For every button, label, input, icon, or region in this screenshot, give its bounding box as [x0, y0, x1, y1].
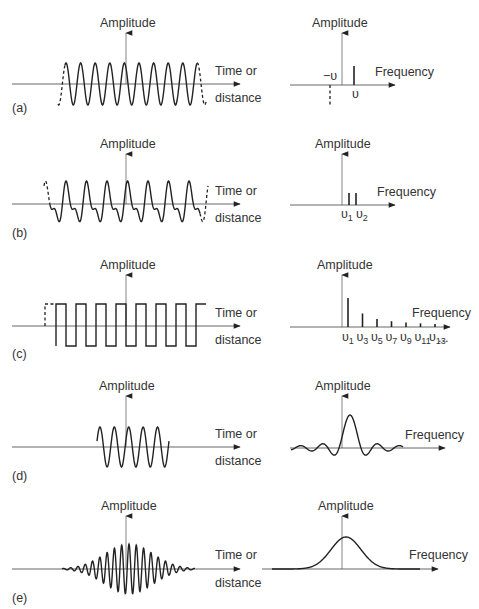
- frequency-axis-label: Frequency: [375, 65, 435, 79]
- harmonic-tick-label-v1: υ1: [342, 330, 354, 346]
- amplitude-label: Amplitude: [99, 379, 155, 393]
- harmonic-tick-label-v5: υ5: [371, 330, 383, 346]
- frequency-axis-label: Frequency: [377, 185, 437, 199]
- time-axis-label-line2: distance: [215, 211, 262, 225]
- row-e: Amplitude Time or distance (e) Amplitude…: [12, 499, 469, 605]
- sine-wave-dashed-extension: [58, 65, 65, 105]
- amplitude-label: Amplitude: [312, 16, 368, 30]
- gaussian-spectrum-curve: [272, 537, 420, 569]
- time-axis-label-line2: distance: [215, 91, 262, 105]
- time-axis-label-line1: Time or: [215, 548, 257, 562]
- row-d-time-panel: Amplitude Time or distance (d): [12, 379, 262, 483]
- amplitude-label: Amplitude: [318, 499, 374, 513]
- harmonic-tick-labels: υ1υ3υ5υ7υ9υ11υ13...: [342, 330, 448, 346]
- harmonic-tick-label-v7: υ7: [386, 330, 398, 346]
- row-a-time-panel: Amplitude Time or distance (a): [12, 16, 262, 115]
- row-b: Amplitude Time or distance (b) Amplitude…: [12, 137, 437, 240]
- square-wave-curve: [56, 304, 206, 346]
- time-axis-label-line2: distance: [215, 576, 262, 590]
- time-axis-label-line1: Time or: [215, 184, 257, 198]
- square-wave-dashed-extension: [45, 304, 56, 326]
- ellipsis: ...: [438, 331, 448, 345]
- row-c-time-panel: Amplitude Time or distance (c): [12, 258, 262, 361]
- amplitude-label: Amplitude: [315, 137, 371, 151]
- row-d: Amplitude Time or distance (d) Amplitude…: [12, 379, 465, 483]
- time-axis-label-line2: distance: [215, 333, 262, 347]
- row-c-frequency-panel: Amplitude Frequency υ1υ3υ5υ7υ9υ11υ13...: [290, 258, 472, 346]
- row-b-time-panel: Amplitude Time or distance (b): [12, 137, 262, 240]
- time-axis-label-line1: Time or: [215, 306, 257, 320]
- row-tag: (e): [12, 591, 27, 605]
- row-tag: (c): [12, 347, 27, 361]
- amplitude-label: Amplitude: [100, 258, 156, 272]
- amplitude-label: Amplitude: [101, 499, 157, 513]
- tick-label-v: υ: [352, 87, 359, 101]
- row-a: Amplitude Time or distance (a) Amplitude…: [12, 16, 435, 115]
- two-sine-sum-curve: [50, 181, 200, 222]
- harmonic-tick-label-v3: υ3: [357, 330, 369, 346]
- amplitude-label: Amplitude: [317, 258, 373, 272]
- frequency-axis-label: Frequency: [412, 306, 472, 320]
- tick-label-neg-v: −υ: [323, 69, 337, 83]
- wave-dashed-extension: [44, 181, 50, 205]
- amplitude-label: Amplitude: [100, 137, 156, 151]
- row-e-time-panel: Amplitude Time or distance (e): [12, 499, 262, 605]
- frequency-axis-label: Frequency: [405, 428, 465, 442]
- harmonic-tick-label-v9: υ9: [400, 330, 412, 346]
- fourier-figure: Amplitude Time or distance (a) Amplitude…: [0, 0, 479, 609]
- time-axis-label-line1: Time or: [215, 64, 257, 78]
- sinc-spectrum-curve: [291, 415, 403, 455]
- tick-label-v2: υ2: [356, 207, 368, 223]
- time-axis-label-line1: Time or: [215, 427, 257, 441]
- time-axis-label-line2: distance: [215, 454, 262, 468]
- row-tag: (a): [12, 101, 27, 115]
- amplitude-label: Amplitude: [100, 16, 156, 30]
- row-c: Amplitude Time or distance (c) Amplitude…: [12, 258, 472, 361]
- row-b-frequency-panel: Amplitude Frequency υ1 υ2: [290, 137, 437, 223]
- row-tag: (d): [12, 469, 27, 483]
- row-e-frequency-panel: Amplitude Frequency: [262, 499, 469, 569]
- frequency-axis-label: Frequency: [409, 548, 469, 562]
- tick-label-v1: υ1: [341, 207, 353, 223]
- amplitude-label: Amplitude: [315, 379, 371, 393]
- row-a-frequency-panel: Amplitude Frequency −υ υ: [290, 16, 435, 105]
- row-d-frequency-panel: Amplitude Frequency: [290, 379, 465, 455]
- row-tag: (b): [12, 226, 27, 240]
